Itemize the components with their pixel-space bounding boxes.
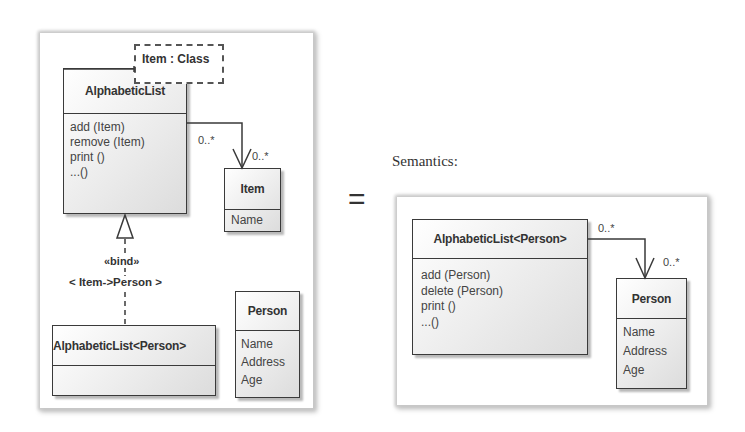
attribute: Age <box>623 361 680 380</box>
source-multiplicity-label: 0..* <box>198 134 215 146</box>
target-multiplicity-label-semantics: 0..* <box>663 256 680 268</box>
alphabetic-list-template-class[interactable]: AlphabeticList add (Item) remove (Item) … <box>63 68 187 214</box>
template-parameter-box[interactable]: Item : Class <box>134 44 224 84</box>
empty-compartment <box>53 366 215 395</box>
attributes-compartment: Name <box>225 210 280 231</box>
binding-substitution-label: < Item->Person > <box>69 276 162 288</box>
attribute: Address <box>623 342 680 361</box>
operation: remove (Item) <box>70 135 180 150</box>
operation: ...() <box>70 165 180 180</box>
class-name: Person <box>236 292 299 331</box>
class-name: AlphabeticList<Person> <box>53 326 215 366</box>
attribute: Address <box>241 353 294 371</box>
attribute: Name <box>623 323 680 342</box>
operation: print () <box>421 299 579 315</box>
target-multiplicity-label: 0..* <box>252 150 269 162</box>
alphabetic-list-person-bound-class[interactable]: AlphabeticList<Person> <box>52 325 216 396</box>
operations-compartment: add (Item) remove (Item) print () ...() <box>64 114 186 213</box>
operation: ...() <box>421 315 579 331</box>
operations-compartment: add (Person) delete (Person) print () ..… <box>413 259 587 354</box>
bind-stereotype-label: «bind» <box>104 255 139 267</box>
person-class[interactable]: Person Name Address Age <box>235 291 300 398</box>
semantics-caption: Semantics: <box>392 153 458 170</box>
attributes-compartment: Name Address Age <box>236 331 299 397</box>
attribute: Name <box>241 335 294 353</box>
person-class-semantics[interactable]: Person Name Address Age <box>616 278 687 389</box>
class-name: Item <box>225 169 280 210</box>
source-multiplicity-label-semantics: 0..* <box>598 222 615 234</box>
attributes-compartment: Name Address Age <box>617 319 686 388</box>
class-name: AlphabeticList<Person> <box>413 220 587 259</box>
operation: print () <box>70 150 180 165</box>
alphabetic-list-person-expanded-class[interactable]: AlphabeticList<Person> add (Person) dele… <box>412 219 588 355</box>
operation: add (Person) <box>421 268 579 284</box>
item-class[interactable]: Item Name <box>224 168 281 232</box>
attribute: Name <box>231 213 274 228</box>
operation: add (Item) <box>70 120 180 135</box>
operation: delete (Person) <box>421 284 579 300</box>
equals-sign: = <box>348 182 366 216</box>
attribute: Age <box>241 371 294 389</box>
class-name: Person <box>617 279 686 319</box>
